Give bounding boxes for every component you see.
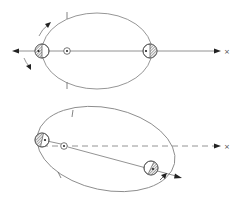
bottom-orbit-ellipse: [29, 94, 183, 200]
bottom-right-body: [144, 161, 158, 175]
top-left-arrow-icon: [12, 49, 19, 54]
top-left-body: [35, 44, 49, 58]
bottom-far-marker: ×: [224, 143, 230, 151]
bottom-radius-arrow-icon: [174, 174, 182, 179]
bottom-left-body: [35, 133, 49, 147]
shaded-hemisphere: [150, 44, 157, 58]
bottom-orbit-tick: [72, 110, 73, 117]
top-lower-motion-arrow-icon: [24, 58, 31, 70]
bottom-radius-vector: [68, 147, 176, 176]
bottom-star-icon: [61, 143, 68, 150]
bottom-motion-arrow-icon: [160, 173, 167, 180]
bottom-right-arrow-icon: [214, 144, 221, 149]
top-upper-motion-arrow-icon: [39, 22, 51, 36]
top-right-body: [143, 44, 157, 58]
top-far-marker: ×: [224, 48, 230, 56]
top-panel: ×: [12, 12, 230, 89]
top-star-icon: [64, 48, 71, 55]
bottom-panel: ×: [29, 94, 230, 200]
top-right-arrow-icon: [214, 49, 221, 54]
orbit-diagram: ×: [0, 0, 239, 200]
